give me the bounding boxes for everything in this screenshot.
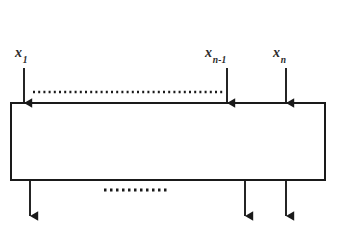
figure-container: x1 xn-1 xn <box>0 0 338 232</box>
processing-block <box>11 103 325 180</box>
block-diagram-canvas <box>0 0 338 232</box>
